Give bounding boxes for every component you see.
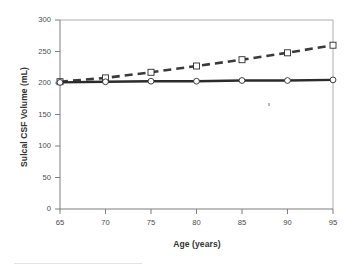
x-tick-label-65: 65 bbox=[48, 218, 72, 227]
plot-frame bbox=[60, 20, 333, 209]
x-tick-label-85: 85 bbox=[230, 218, 254, 227]
y-tick-label-300: 300 bbox=[25, 15, 51, 24]
x-axis-title: Age (years) bbox=[60, 239, 334, 249]
y-tick-label-0: 0 bbox=[25, 204, 51, 213]
x-tick-label-90: 90 bbox=[276, 218, 300, 227]
y-axis-title: Sulcal CSF Volume (mL) bbox=[19, 52, 29, 182]
x-tick-label-95: 95 bbox=[321, 218, 345, 227]
chart-figure: 300 250 200 150 100 50 0 65 70 75 80 85 … bbox=[0, 0, 354, 266]
x-tick-label-75: 75 bbox=[139, 218, 163, 227]
page-edge-artifact bbox=[14, 263, 142, 264]
scan-speck bbox=[268, 103, 270, 106]
x-axis-ticks bbox=[60, 209, 333, 214]
x-tick-label-70: 70 bbox=[94, 218, 118, 227]
x-tick-label-80: 80 bbox=[185, 218, 209, 227]
y-axis-ticks bbox=[55, 20, 60, 209]
